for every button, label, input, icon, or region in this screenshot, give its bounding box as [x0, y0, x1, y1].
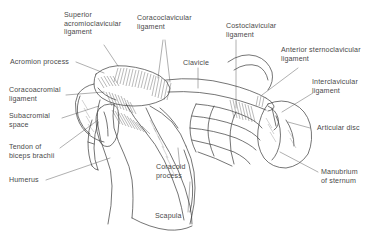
- sternum-shade: [266, 118, 296, 148]
- label-clavicle: Clavicle: [183, 59, 209, 68]
- label-humerus: Humerus: [9, 176, 39, 185]
- label-manubrium-of-sternum: Manubrium of sternum: [321, 168, 358, 185]
- superior-ac-ligament-hatch: [114, 68, 154, 90]
- label-costoclavicular-ligament: Costoclavicular ligament: [226, 22, 276, 39]
- coracoacromial-ligament-hatch: [106, 92, 136, 114]
- label-superior-acromioclavicular-ligament: Superior acromioclavicular ligament: [64, 11, 121, 37]
- label-subacromial-space: Subacromial space: [9, 112, 50, 129]
- label-scapula: Scapula: [155, 212, 182, 221]
- bone-outlines: [75, 55, 311, 230]
- label-coracoid-process: Coracoid process: [156, 163, 186, 180]
- label-articular-disc: Articular disc: [317, 124, 360, 133]
- acromion-hatch: [98, 76, 119, 88]
- ligament-hatching: [82, 68, 296, 178]
- anatomy-illustration: [0, 0, 375, 241]
- costoclavicular-ligament-hatch: [230, 100, 255, 122]
- label-coracoclavicular-ligament: Coracoclavicular ligament: [137, 14, 192, 31]
- label-acromion-process: Acromion process: [10, 58, 69, 67]
- label-anterior-sternoclavicular-ligament: Anterior sternoclavicular ligament: [281, 46, 361, 63]
- interclavicular-ligament-hatch: [256, 96, 264, 107]
- label-tendon-of-biceps-brachii: Tendon of biceps brachii: [9, 143, 54, 160]
- label-interclavicular-ligament: Interclavicular ligament: [312, 78, 358, 95]
- label-coracoacromial-ligament: Coracoacromial ligament: [9, 86, 61, 103]
- figure-shoulder-girdle: Superior acromioclavicular ligament Cora…: [0, 0, 375, 241]
